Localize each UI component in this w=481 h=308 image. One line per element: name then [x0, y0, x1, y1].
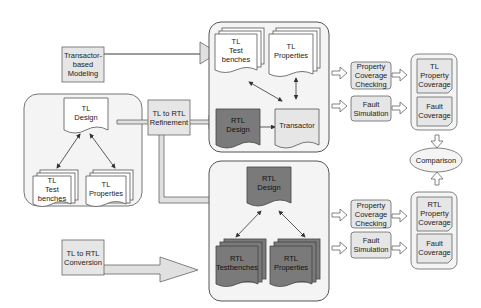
conversion-arrow	[100, 257, 198, 282]
bottom-property-checking-label: Property Coverage Checking	[351, 200, 391, 228]
tl-property-coverage-label: TL Property Coverage	[417, 59, 452, 91]
bottom-fault-sim-label: Fault Simulation	[351, 232, 391, 258]
modeling-arrow	[100, 42, 218, 64]
left-tl-testbenches-label: TL Test benches	[33, 176, 71, 202]
modeling-label: Transactor- based Modeling	[62, 47, 104, 82]
top-rtl-design-label: RTL Design	[216, 109, 260, 141]
left-tl-design-label: TL Design	[64, 98, 108, 128]
conversion-label: TL to RTL Conversion	[62, 240, 104, 275]
bottom-fault-coverage-label: Fault Coverage	[417, 234, 452, 261]
top-tl-testbenches-label: TL Test benches	[215, 34, 257, 66]
top-fault-coverage-label: Fault Coverage	[417, 97, 452, 124]
rtl-property-coverage-label: RTL Property Coverage	[417, 197, 452, 229]
rtl-properties-label: RTL Properties	[270, 246, 312, 280]
left-tl-properties-label: TL Properties	[86, 176, 126, 202]
top-property-checking-label: Property Coverage Checking	[351, 62, 391, 89]
rtl-testbenches-label: RTL Testbenches	[216, 246, 258, 280]
top-fault-sim-label: Fault Simulation	[351, 96, 391, 121]
diagram-canvas: TL Design TL Test benches TL Properties …	[0, 0, 481, 308]
refinement-label: TL to RTL Refinement	[148, 100, 190, 135]
bottom-rtl-design-label: RTL Design	[247, 167, 291, 199]
transactor-label: Transactor	[275, 109, 319, 141]
comparison-label: Comparison	[410, 148, 462, 172]
top-tl-properties-label: TL Properties	[269, 34, 313, 68]
